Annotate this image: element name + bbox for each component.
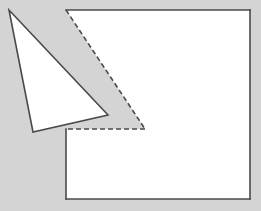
- geometry-svg: [0, 0, 261, 211]
- figure-canvas: [0, 0, 261, 211]
